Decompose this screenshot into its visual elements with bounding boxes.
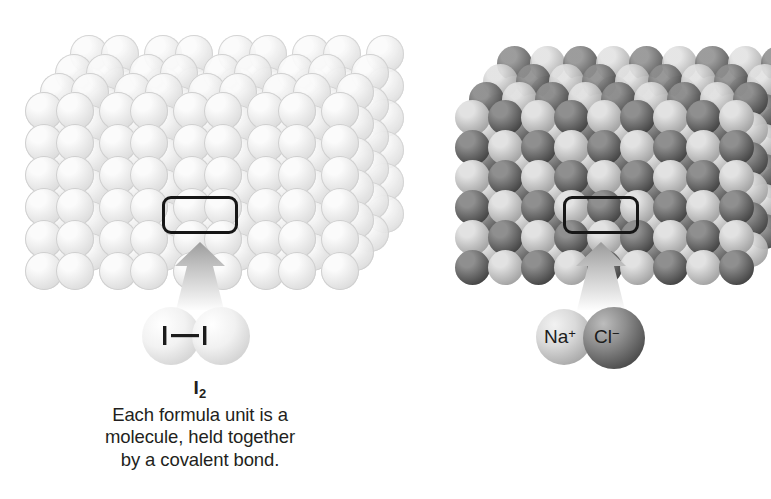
lattice-ion-sphere (488, 250, 523, 285)
lattice-atom-sphere (56, 252, 94, 290)
caption-line: Each formula unit is a (30, 404, 370, 427)
callout-arrow-nacl (569, 242, 633, 310)
lattice-atom-sphere (321, 252, 359, 290)
formula-label-iodine: I2 (30, 376, 370, 402)
panel-iodine: I2 Each formula unit is a molecule, held… (0, 0, 400, 499)
covalent-bond-drawing (142, 303, 260, 369)
formula-unit-highlight-box-nacl (563, 196, 639, 234)
lattice-ion-sphere (653, 250, 688, 285)
lattice-ion-sphere (719, 250, 754, 285)
formula-unit-highlight-box-iodine (162, 196, 238, 234)
lattice-ion-sphere (455, 250, 490, 285)
lattice-ion-sphere (521, 250, 556, 285)
lattice-atom-sphere (130, 252, 168, 290)
ion-label-sodium: Na+ (544, 327, 576, 346)
molecule-callout-nacl: Na+ Cl− (536, 307, 648, 367)
caption-text-iodine: Each formula unit is a molecule, held to… (30, 404, 370, 472)
ion-label-chloride: Cl− (594, 327, 620, 346)
caption-line: by a covalent bond. (30, 449, 370, 472)
lattice-atom-sphere (278, 252, 316, 290)
callout-arrow-iodine (168, 242, 232, 310)
caption-line: molecule, held together (30, 426, 370, 449)
lattice-ion-sphere (686, 250, 721, 285)
caption-iodine: I2 Each formula unit is a molecule, held… (30, 376, 370, 472)
molecule-callout-iodine (142, 303, 260, 369)
